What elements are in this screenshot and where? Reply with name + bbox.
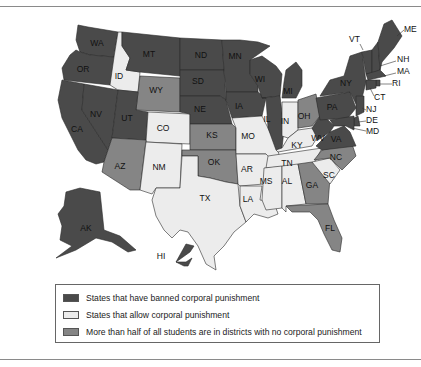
label-wy: WY xyxy=(149,85,163,95)
label-md: MD xyxy=(366,126,379,136)
label-vt: VT xyxy=(349,34,360,44)
label-al: AL xyxy=(282,176,293,186)
label-mn: MN xyxy=(228,51,241,61)
label-ia: IA xyxy=(235,101,243,111)
bottom-divider xyxy=(0,359,421,360)
state-ak xyxy=(56,188,136,258)
label-nj: NJ xyxy=(366,104,376,114)
label-ca: CA xyxy=(71,124,83,134)
state-ms xyxy=(262,166,282,210)
label-pa: PA xyxy=(327,102,338,112)
label-ma: MA xyxy=(397,66,410,76)
state-hi xyxy=(176,244,194,266)
legend-swatch-majority-no xyxy=(63,328,79,336)
label-nh: NH xyxy=(397,54,409,64)
label-sc: SC xyxy=(323,170,335,180)
state-ia xyxy=(226,92,266,118)
legend-label-majority-no: More than half of all students are in di… xyxy=(86,327,362,337)
label-or: OR xyxy=(77,64,90,74)
legend-label-allowed: States that allow corporal punishment xyxy=(86,310,229,320)
label-ne: NE xyxy=(194,104,206,114)
label-ms: MS xyxy=(260,176,273,186)
state-de xyxy=(354,116,360,126)
label-mo: MO xyxy=(241,131,255,141)
legend-swatch-allowed xyxy=(63,311,79,319)
label-ks: KS xyxy=(206,130,218,140)
label-ct: CT xyxy=(374,92,385,102)
legend-item-banned: States that have banned corporal punishm… xyxy=(63,292,259,304)
label-ar: AR xyxy=(241,164,253,174)
label-ri: RI xyxy=(392,78,401,88)
label-co: CO xyxy=(157,123,170,133)
legend-item-majority-no: More than half of all students are in di… xyxy=(63,326,362,338)
label-tx: TX xyxy=(200,193,211,203)
legend-label-banned: States that have banned corporal punishm… xyxy=(86,293,259,303)
label-tn: TN xyxy=(281,158,292,168)
legend-swatch-banned xyxy=(63,294,79,302)
label-de: DE xyxy=(366,115,378,125)
label-ga: GA xyxy=(306,180,319,190)
label-ut: UT xyxy=(121,113,132,123)
label-wa: WA xyxy=(90,38,104,48)
label-mi: MI xyxy=(283,86,292,96)
label-wv: WV xyxy=(311,133,325,143)
us-map: WA OR CA NV ID MT WY UT CO AZ NM ND SD N… xyxy=(0,0,421,284)
label-nc: NC xyxy=(330,152,342,162)
state-ct xyxy=(366,80,376,90)
label-nd: ND xyxy=(195,50,207,60)
label-fl: FL xyxy=(325,223,335,233)
label-id: ID xyxy=(115,71,124,81)
legend-item-allowed: States that allow corporal punishment xyxy=(63,309,229,321)
label-wi: WI xyxy=(255,74,265,84)
label-nm: NM xyxy=(152,162,165,172)
label-ak: AK xyxy=(80,223,92,233)
label-me: ME xyxy=(404,24,417,34)
label-nv: NV xyxy=(90,109,102,119)
label-az: AZ xyxy=(115,161,126,171)
label-ky: KY xyxy=(291,140,303,150)
label-oh: OH xyxy=(298,111,311,121)
label-mt: MT xyxy=(143,49,155,59)
state-ri xyxy=(376,80,380,86)
state-nj xyxy=(356,96,364,116)
label-sd: SD xyxy=(192,76,204,86)
label-la: LA xyxy=(243,194,254,204)
label-va: VA xyxy=(331,134,342,144)
label-in: IN xyxy=(281,116,290,126)
map-legend: States that have banned corporal punishm… xyxy=(55,284,380,343)
label-il: IL xyxy=(263,114,270,124)
label-ok: OK xyxy=(208,157,221,167)
label-hi: HI xyxy=(157,251,166,261)
label-ny: NY xyxy=(340,78,352,88)
